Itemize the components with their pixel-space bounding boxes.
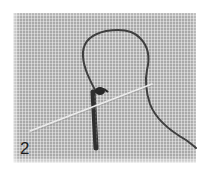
step-number-label: 2 [20, 140, 29, 157]
photo-frame: 2 [0, 0, 208, 176]
stitch-illustration [0, 0, 208, 176]
